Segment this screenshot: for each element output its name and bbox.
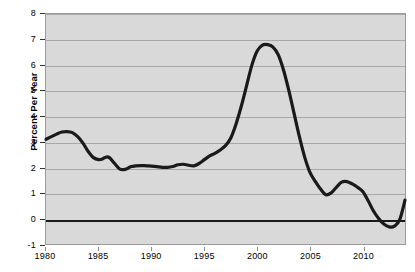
x-tick-label: 1980 bbox=[35, 251, 56, 261]
y-tick-label: 6 bbox=[31, 60, 36, 70]
series-path bbox=[46, 44, 405, 227]
chart-container: Percent Per Year -1012345678 19801985199… bbox=[0, 0, 415, 272]
x-tick-label: 1990 bbox=[141, 251, 162, 261]
y-tick-label: 5 bbox=[31, 85, 36, 95]
x-tick-label: 2000 bbox=[247, 251, 268, 261]
y-axis-tick-group: -1012345678 bbox=[0, 0, 45, 272]
x-tick-label: 2005 bbox=[300, 251, 321, 261]
y-tick-mark bbox=[40, 245, 45, 246]
plot-area bbox=[45, 13, 406, 245]
x-tick-mark bbox=[151, 247, 152, 251]
x-tick-label: 1985 bbox=[88, 251, 109, 261]
x-tick-label: 1995 bbox=[194, 251, 215, 261]
y-tick-label: 2 bbox=[31, 163, 36, 173]
x-tick-mark bbox=[310, 247, 311, 251]
y-tick-label: 7 bbox=[31, 34, 36, 44]
series-line-percent-per-year bbox=[46, 14, 405, 244]
y-tick-label: 1 bbox=[31, 188, 36, 198]
x-tick-mark bbox=[98, 247, 99, 251]
y-tick-label: 4 bbox=[31, 111, 36, 121]
x-tick-mark bbox=[257, 247, 258, 251]
x-tick-mark bbox=[45, 247, 46, 251]
x-tick-mark bbox=[364, 247, 365, 251]
y-tick-label: 0 bbox=[31, 214, 36, 224]
x-axis-tick-group: 1980198519901995200020052010 bbox=[0, 247, 415, 272]
x-tick-label: 2010 bbox=[353, 251, 374, 261]
x-tick-mark bbox=[204, 247, 205, 251]
y-tick-label: 8 bbox=[31, 8, 36, 18]
y-tick-label: 3 bbox=[31, 137, 36, 147]
